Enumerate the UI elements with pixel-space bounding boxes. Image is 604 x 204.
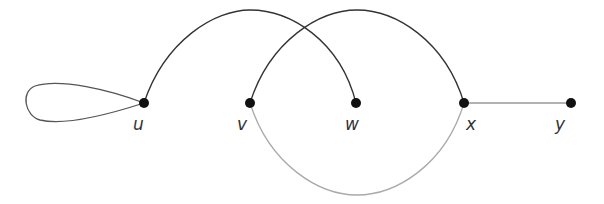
edge-loop-u xyxy=(26,83,144,121)
label-u: u xyxy=(133,114,144,134)
node-y xyxy=(566,98,576,108)
graph-diagram: u v w x y xyxy=(0,0,604,204)
label-x: x xyxy=(465,114,477,134)
node-x xyxy=(459,98,469,108)
node-v xyxy=(245,98,255,108)
label-w: w xyxy=(345,114,359,134)
edge-u-w xyxy=(144,10,356,103)
node-w xyxy=(351,98,361,108)
label-v: v xyxy=(237,114,248,134)
node-u xyxy=(139,98,149,108)
label-y: y xyxy=(554,114,566,134)
edge-v-x-upper xyxy=(250,10,464,103)
